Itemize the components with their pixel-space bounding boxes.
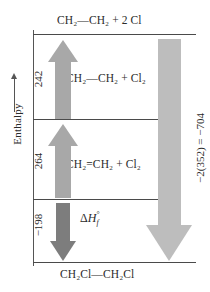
delta-symbol: Δ	[80, 211, 88, 225]
energy-level-line-top	[33, 34, 196, 35]
species-label-top: CH₂—CH₂ + 2 Cl	[57, 14, 142, 26]
arrow-value-264: 264	[32, 141, 44, 181]
arrow-value-198: −198	[32, 202, 44, 248]
energy-level-line-third	[33, 199, 163, 200]
energy-level-line-second	[33, 119, 163, 120]
enthalpy-arrow-264	[47, 124, 78, 198]
enthalpy-axis-label: Enthalpy	[11, 84, 23, 164]
enthalpy-arrow-242	[47, 40, 78, 119]
arrow-head-up-icon	[48, 40, 78, 62]
arrow-shaft	[55, 61, 71, 119]
arrow-head-up-icon	[48, 124, 78, 146]
arrow-head-down-icon	[50, 241, 76, 261]
arrow-shaft	[55, 145, 71, 198]
arrow-value-242: 242	[32, 59, 44, 99]
arrow-shaft	[158, 39, 181, 225]
species-label-bottom: CH₂Cl—CH₂Cl	[60, 268, 134, 280]
arrow-head-down-icon	[146, 225, 192, 261]
enthalpy-arrow-198	[50, 203, 76, 261]
arrow-value-704: −2(352) = −704	[194, 102, 206, 194]
f-subscript: f	[97, 218, 99, 227]
enthalpy-arrow-704	[146, 39, 192, 261]
energy-level-line-bottom	[33, 262, 196, 263]
arrow-shaft	[56, 203, 70, 241]
delta-h-formation-label: ΔH°f	[80, 210, 99, 227]
enthalpy-diagram: Enthalpy CH₂—CH₂ + 2 Cl CH₂—CH₂ + Cl₂ CH…	[0, 0, 210, 292]
